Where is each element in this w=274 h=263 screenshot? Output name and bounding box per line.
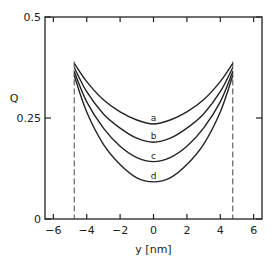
y-axis-title: Q — [10, 92, 19, 105]
curve-label-d: d — [151, 171, 157, 181]
curve-label-b: b — [151, 131, 157, 141]
x-tick-label: −2 — [112, 224, 128, 237]
curve-label-c: c — [151, 151, 156, 161]
x-tick-label: 0 — [150, 224, 157, 237]
chart: −6−4−2024600.250.5y [nm]Qabcd — [0, 0, 274, 263]
curve-d — [74, 76, 233, 182]
x-tick-label: 6 — [250, 224, 257, 237]
x-axis-title: y [nm] — [135, 243, 171, 256]
y-tick-label: 0.25 — [17, 112, 42, 125]
y-tick-label: 0 — [34, 213, 41, 226]
x-tick-label: −6 — [45, 224, 61, 237]
x-tick-label: −4 — [79, 224, 95, 237]
curve-label-a: a — [151, 113, 157, 123]
x-tick-label: 2 — [183, 224, 190, 237]
y-tick-label: 0.5 — [24, 11, 42, 24]
x-tick-label: 4 — [217, 224, 224, 237]
